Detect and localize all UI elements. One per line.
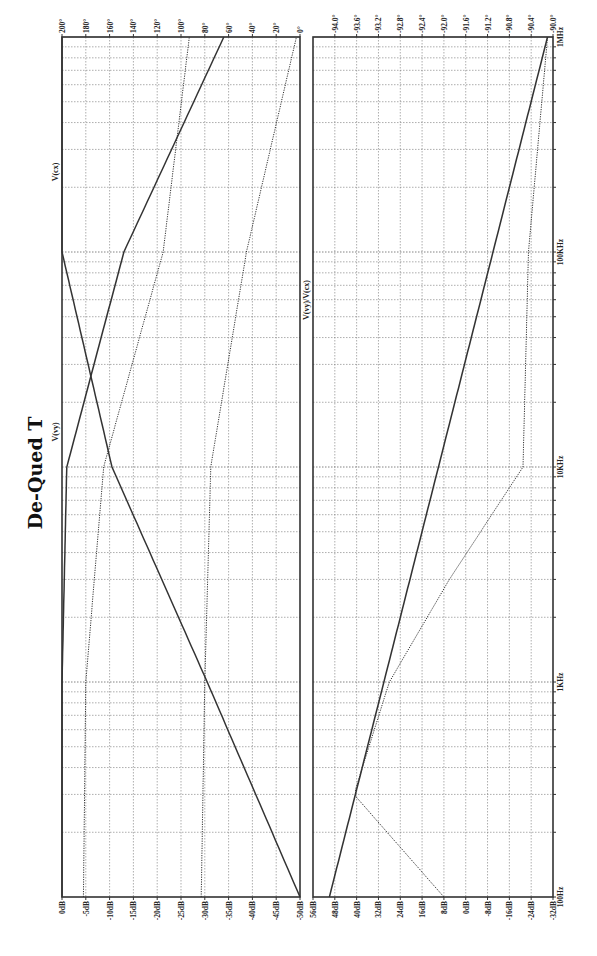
db-tick-label: -50dB — [296, 901, 305, 920]
phase-tick-label: -91.2° — [484, 14, 493, 33]
trace-label-ratio: V(vy)/V(cx) — [302, 280, 311, 320]
phase-tick-label: -94.0° — [331, 14, 340, 33]
frequency-tick-label: 100KHz — [556, 238, 565, 265]
db-tick-label: -10dB — [106, 901, 115, 920]
phase-tick-label: 160° — [106, 19, 115, 33]
phase-tick-label: -92.0° — [440, 14, 449, 33]
frequency-tick-label: 100Hz — [556, 886, 565, 907]
db-tick-label: -25dB — [177, 901, 186, 920]
phase-tick-label: 0° — [296, 26, 305, 33]
db-tick-label: 0dB — [462, 901, 471, 914]
phase-tick-label: 120° — [153, 19, 162, 33]
db-tick-label: 32dB — [374, 901, 383, 918]
db-tick-label: -30dB — [201, 901, 210, 920]
db-tick-label: 40dB — [353, 901, 362, 918]
phase-tick-label: -92.8° — [396, 14, 405, 33]
phase-tick-label: -93.2° — [374, 14, 383, 33]
frequency-tick-label: 1MHz — [556, 26, 565, 47]
phase-tick-label: 20° — [272, 23, 281, 34]
phase-tick-label: -92.4° — [418, 14, 427, 33]
phase-tick-label: 100° — [177, 19, 186, 33]
db-tick-label: -5dB — [82, 901, 91, 916]
phase-tick-label: 200° — [58, 19, 67, 33]
phase-tick-label: -90.4° — [527, 14, 536, 33]
trace-label-vvy: V(vy) — [51, 422, 60, 441]
bode-plot: 200°180°160°140°120°100°80°60°40°20°0°0d… — [0, 0, 597, 956]
db-tick-label: 24dB — [396, 901, 405, 918]
phase-tick-label: -90.8° — [505, 14, 514, 33]
db-tick-label: 56dB — [309, 901, 318, 918]
phase-tick-label: -91.6° — [462, 14, 471, 33]
db-tick-label: 8dB — [440, 901, 449, 914]
phase-tick-label: 180° — [82, 19, 91, 33]
phase-tick-label: 80° — [201, 23, 210, 34]
right-panel-grid — [313, 37, 553, 897]
db-tick-label: 16dB — [418, 901, 427, 918]
db-tick-label: 0dB — [58, 901, 67, 914]
frequency-tick-label: 1KHz — [556, 672, 565, 691]
db-tick-label: 48dB — [331, 901, 340, 918]
phase-tick-label: 60° — [225, 23, 234, 34]
db-tick-label: -20dB — [153, 901, 162, 920]
db-tick-label: -8dB — [484, 901, 493, 916]
phase-tick-label: -93.6° — [353, 14, 362, 33]
trace-label-vcx: V(cx) — [51, 162, 60, 181]
db-tick-label: -40dB — [248, 901, 257, 920]
phase-tick-label: 40° — [248, 23, 257, 34]
left-panel-grid — [62, 37, 300, 897]
db-tick-label: -16dB — [505, 901, 514, 920]
db-tick-label: -45dB — [272, 901, 281, 920]
db-tick-label: -35dB — [225, 901, 234, 920]
db-tick-label: -24dB — [527, 901, 536, 920]
db-tick-label: -15dB — [129, 901, 138, 920]
phase-tick-label: 140° — [129, 19, 138, 33]
chart-title: De-Qued T — [24, 417, 46, 530]
frequency-tick-label: 10KHz — [556, 455, 565, 478]
